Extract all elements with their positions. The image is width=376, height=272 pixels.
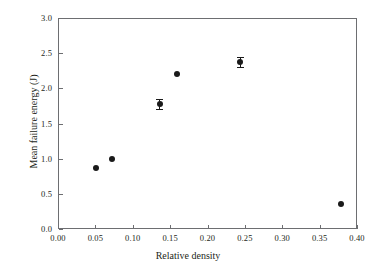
x-tick-mark [320, 225, 321, 229]
x-tick-label: 0.25 [225, 233, 265, 243]
x-tick-label: 0.20 [188, 233, 228, 243]
y-tick-mark [59, 159, 63, 160]
data-point [93, 165, 99, 171]
x-axis-title: Relative density [0, 250, 376, 261]
x-tick-mark [95, 225, 96, 229]
error-bar-cap-lower [237, 67, 244, 68]
figure: 0.000.050.100.150.200.250.300.350.40 0.0… [0, 0, 376, 272]
y-axis-title: Mean failure energy (J) [28, 27, 39, 217]
x-tick-mark [357, 225, 358, 229]
error-bar-cap-lower [156, 109, 163, 110]
x-tick-label: 0.35 [300, 233, 340, 243]
y-tick-mark [59, 229, 63, 230]
x-tick-label: 0.40 [337, 233, 376, 243]
y-tick-label: 3.0 [26, 13, 52, 23]
x-tick-mark [282, 225, 283, 229]
y-tick-label: 0.0 [26, 224, 52, 234]
data-point [109, 156, 115, 162]
y-tick-mark [59, 88, 63, 89]
data-point [157, 101, 163, 107]
x-tick-label: 0.00 [38, 233, 78, 243]
x-tick-mark [245, 225, 246, 229]
plot-frame [58, 18, 357, 229]
x-tick-label: 0.05 [75, 233, 115, 243]
y-tick-mark [59, 194, 63, 195]
data-series-layer [59, 19, 356, 228]
y-tick-mark [59, 18, 63, 19]
x-tick-mark [170, 225, 171, 229]
data-point [338, 201, 344, 207]
data-point [237, 59, 243, 65]
error-bar-cap-upper [156, 99, 163, 100]
x-tick-label: 0.30 [262, 233, 302, 243]
error-bar-cap-upper [237, 57, 244, 58]
x-tick-mark [208, 225, 209, 229]
x-tick-label: 0.10 [113, 233, 153, 243]
y-tick-mark [59, 53, 63, 54]
y-tick-mark [59, 124, 63, 125]
x-tick-label: 0.15 [150, 233, 190, 243]
x-tick-mark [133, 225, 134, 229]
